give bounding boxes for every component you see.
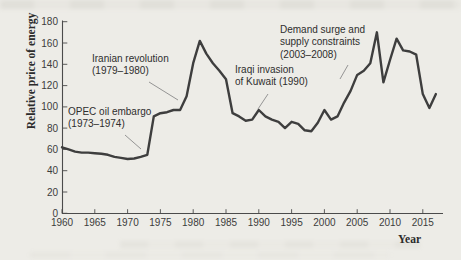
x-tick-label: 1995 (280, 217, 303, 228)
annotation-opec-oil-embargo: OPEC oil embargo (1973–1974) (68, 106, 151, 131)
x-tick-label: 1980 (182, 217, 205, 228)
y-tick-label: 40 (47, 165, 59, 176)
annotation-pointer-demand (340, 65, 348, 79)
annotation-text-line: Iranian revolution (92, 53, 169, 65)
x-tick-label: 1970 (116, 217, 139, 228)
x-tick-label: 2010 (379, 217, 402, 228)
annotation-text-line: Iraqi invasion (235, 64, 308, 76)
energy-price-figure: 1960196519701975198019851990199520002005… (0, 0, 461, 260)
x-tick-label: 2005 (346, 217, 369, 228)
y-tick-label: 100 (41, 101, 58, 112)
y-tick-label: 60 (47, 144, 59, 155)
annotation-text-line: Demand surge and (280, 24, 365, 36)
annotation-text-line: (1973–1974) (68, 118, 151, 130)
y-axis-title: Relative price of energy (25, 11, 37, 131)
x-tick-label: 1990 (248, 217, 271, 228)
annotation-iranian-revolution: Iranian revolution (1979–1980) (92, 53, 169, 78)
x-tick-label: 2015 (412, 217, 435, 228)
annotation-text-line: of Kuwait (1990) (235, 76, 308, 88)
price-line-series (62, 32, 436, 159)
annotation-text-line: OPEC oil embargo (68, 106, 151, 118)
annotation-iraqi-invasion: Iraqi invasion of Kuwait (1990) (235, 64, 308, 89)
x-tick-label: 1975 (149, 217, 172, 228)
x-tick-label: 2000 (313, 217, 336, 228)
y-tick-label: 20 (47, 187, 59, 198)
x-tick-label: 1965 (84, 217, 107, 228)
y-tick-label: 0 (52, 208, 58, 219)
y-tick-label: 140 (41, 59, 58, 70)
y-tick-label: 180 (41, 16, 58, 27)
annotation-pointer-iraqi (258, 94, 268, 109)
annotation-text-line: (1979–1980) (92, 65, 169, 77)
x-axis-title: Year (398, 233, 421, 245)
y-tick-label: 80 (47, 123, 59, 134)
y-tick-label: 120 (41, 80, 58, 91)
annotation-text-line: supply constraints (280, 36, 365, 48)
annotation-pointer-iranian (149, 82, 178, 100)
y-tick-label: 160 (41, 38, 58, 49)
annotation-demand-surge: Demand surge and supply constraints (200… (280, 24, 365, 61)
annotation-text-line: (2003–2008) (280, 49, 365, 61)
annotation-pointer-opec (125, 135, 141, 149)
x-tick-label: 1985 (215, 217, 238, 228)
